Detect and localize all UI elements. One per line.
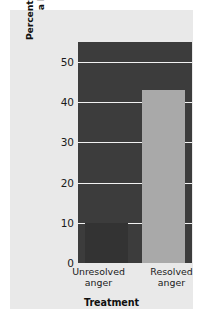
y-axis-title-line-2: a Decline in Distress (35, 0, 46, 10)
y-axis-tick-labels: 50403020100 (50, 42, 74, 263)
y-axis-title-line-1: Percentage of Children Showing (24, 0, 35, 40)
y-axis-tick-label: 50 (61, 56, 74, 68)
x-axis-title: Treatment (20, 297, 203, 308)
y-axis-tick-label: 40 (61, 96, 74, 108)
plot-area (78, 42, 192, 263)
gridline (78, 62, 192, 63)
y-axis-tick-label: 30 (61, 136, 74, 148)
y-axis-tick-label: 10 (61, 217, 74, 229)
x-axis-tick-labels: Unresolved angerResolved anger (62, 266, 203, 288)
figure-panel: Percentage of Children Showing a Decline… (10, 10, 193, 309)
bar-resolved-anger[interactable] (142, 90, 186, 263)
bar-unresolved-anger[interactable] (85, 223, 129, 263)
x-axis-tick-label: Unresolved anger (62, 266, 135, 288)
x-axis-tick-label: Resolved anger (135, 266, 203, 288)
y-axis-title: Percentage of Children Showing a Decline… (22, 0, 48, 58)
y-axis-tick-label: 20 (61, 177, 74, 189)
